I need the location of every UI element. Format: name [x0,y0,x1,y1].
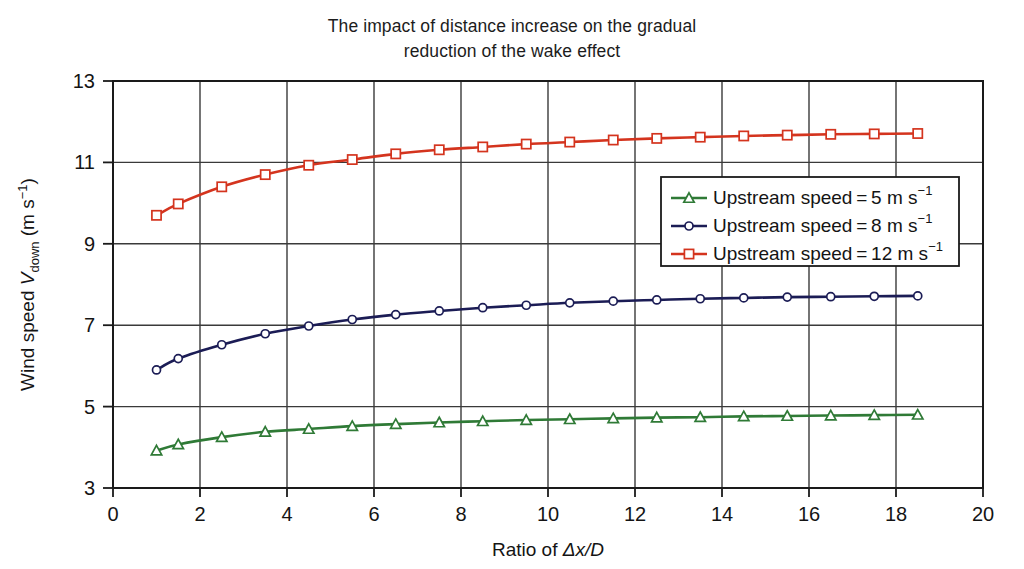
x-tick-label: 20 [972,503,994,525]
y-tick-label: 5 [84,396,95,418]
marker-square [739,131,748,140]
marker-diamond [479,304,487,312]
marker-square [684,249,693,258]
marker-square [391,149,400,158]
x-tick-label: 18 [885,503,907,525]
axis-labels-layer: Ratio of Δx/DWind speed Vdown (m s−1) [15,178,604,560]
marker-square [348,155,357,164]
chart-legend: Upstream speed = 5 m s−1Upstream speed =… [661,177,959,266]
marker-diamond [566,299,574,307]
marker-diamond [218,341,226,349]
x-tick-label: 0 [107,503,118,525]
legend-entry-label: Upstream speed = 5 m s−1 [713,183,932,208]
x-axis-title: Ratio of Δx/D [492,539,604,560]
marker-diamond [696,295,704,303]
marker-diamond [914,292,922,300]
x-tick-label: 12 [624,503,646,525]
marker-square [261,170,270,179]
marker-square [826,130,835,139]
x-tick-label: 2 [194,503,205,525]
marker-diamond [348,316,356,324]
y-tick-label: 3 [84,477,95,499]
marker-square [217,182,226,191]
chart-plot-area: 0246810121416182035791113 Ratio of Δx/DW… [0,0,1024,569]
x-tick-label: 6 [368,503,379,525]
marker-square [913,129,922,138]
series-line [157,415,918,451]
chart-figure: The impact of distance increase on the g… [0,0,1024,569]
x-tick-label: 10 [537,503,559,525]
marker-square [783,131,792,140]
marker-diamond [783,293,791,301]
marker-diamond [153,366,161,374]
marker-diamond [740,294,748,302]
marker-diamond [522,301,530,309]
legend-entry-label: Upstream speed = 8 m s−1 [713,211,932,236]
marker-diamond [870,292,878,300]
marker-square [609,135,618,144]
y-tick-label: 7 [84,314,95,336]
x-tick-label: 16 [798,503,820,525]
y-tick-label: 9 [84,233,95,255]
legend-entry-label: Upstream speed = 12 m s−1 [713,239,943,264]
y-axis-title: Wind speed Vdown (m s−1) [15,178,42,391]
y-tick-label: 11 [74,151,95,173]
marker-square [522,139,531,148]
marker-square [174,199,183,208]
y-tick-label: 13 [73,70,95,92]
marker-square [304,161,313,170]
marker-square [696,133,705,142]
marker-diamond [392,311,400,319]
x-tick-label: 8 [455,503,466,525]
marker-square [565,137,574,146]
marker-square [652,134,661,143]
series-line [157,296,918,370]
marker-square [152,211,161,220]
marker-diamond [261,330,269,338]
x-tick-label: 14 [711,503,733,525]
marker-square [478,142,487,151]
marker-diamond [827,293,835,301]
marker-diamond [653,296,661,304]
marker-square [435,145,444,154]
marker-diamond [609,297,617,305]
marker-square [870,129,879,138]
marker-diamond [305,322,313,330]
x-tick-label: 4 [281,503,292,525]
marker-diamond [685,222,693,230]
marker-diamond [435,307,443,315]
marker-diamond [174,355,182,363]
